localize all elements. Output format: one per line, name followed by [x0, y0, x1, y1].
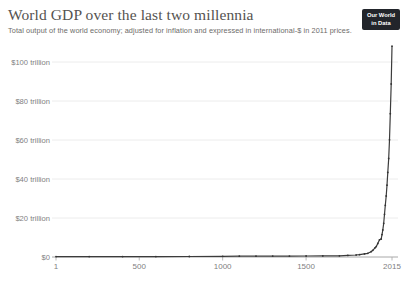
data-point — [339, 255, 341, 257]
data-point — [255, 255, 257, 257]
data-point — [359, 254, 361, 256]
data-point — [322, 255, 324, 257]
data-point — [380, 238, 382, 240]
data-point — [385, 195, 387, 197]
data-point — [367, 252, 369, 254]
x-tick-label: 2015 — [383, 262, 401, 271]
data-point — [389, 113, 391, 115]
y-tick-label: $100 trillion — [11, 58, 50, 67]
y-tick-label: $80 trillion — [15, 97, 50, 106]
data-point — [347, 255, 349, 257]
data-point — [383, 222, 385, 224]
data-point — [388, 158, 390, 160]
data-point — [238, 255, 240, 257]
data-point — [222, 255, 224, 257]
data-point — [55, 256, 57, 258]
gdp-line — [56, 46, 392, 256]
plot-area: $0$20 trillion$40 trillion$60 trillion$8… — [0, 0, 407, 287]
y-tick-label: $0 — [42, 253, 50, 262]
data-point — [364, 253, 366, 255]
x-tick-label: 500 — [133, 262, 147, 271]
y-tick-label: $60 trillion — [15, 136, 50, 145]
y-tick-label: $20 trillion — [15, 214, 50, 223]
data-point — [375, 246, 377, 248]
y-tick-label: $40 trillion — [15, 175, 50, 184]
data-point — [272, 255, 274, 257]
data-point — [377, 243, 379, 245]
data-point — [355, 254, 357, 256]
x-tick-label: 1500 — [297, 262, 315, 271]
data-point — [387, 172, 389, 174]
owid-chart: World GDP over the last two millennia To… — [0, 0, 407, 287]
data-point — [384, 213, 386, 215]
data-point — [381, 234, 383, 236]
data-point — [384, 204, 386, 206]
data-point — [386, 184, 388, 186]
data-point — [379, 239, 381, 241]
data-point — [305, 255, 307, 257]
data-point — [88, 256, 90, 258]
data-point — [370, 251, 372, 253]
data-point — [188, 256, 190, 258]
x-tick-label: 1000 — [214, 262, 232, 271]
x-tick-label: 1 — [54, 262, 59, 271]
data-point — [289, 255, 291, 257]
data-point — [389, 139, 391, 141]
data-point — [155, 256, 157, 258]
data-point — [122, 256, 124, 258]
data-point — [390, 83, 392, 85]
data-point — [382, 229, 384, 231]
data-point — [372, 249, 374, 251]
data-point — [391, 45, 393, 47]
